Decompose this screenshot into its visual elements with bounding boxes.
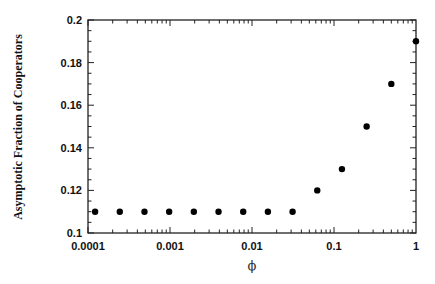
data-point <box>289 209 295 215</box>
y-tick-label: 0.1 <box>67 227 82 239</box>
y-tick-label: 0.16 <box>61 99 82 111</box>
x-tick-label: 0.01 <box>241 240 262 252</box>
data-point <box>339 166 345 172</box>
y-tick-label: 0.2 <box>67 14 82 26</box>
data-point <box>117 209 123 215</box>
y-tick-label: 0.18 <box>61 57 82 69</box>
x-tick-label: 1 <box>413 240 419 252</box>
data-point <box>363 123 369 129</box>
y-axis-label: Asymptotic Fraction of Cooperators <box>11 34 25 220</box>
data-point <box>166 209 172 215</box>
y-tick-label: 0.14 <box>61 142 83 154</box>
x-tick-label: 0.1 <box>326 240 341 252</box>
data-point <box>191 209 197 215</box>
data-point <box>215 209 221 215</box>
x-axis-label: ϕ <box>248 258 257 273</box>
x-tick-label: 0.001 <box>156 240 184 252</box>
data-point <box>141 209 147 215</box>
data-point <box>265 209 271 215</box>
y-axis-ticks: 0.10.120.140.160.180.2 <box>61 14 416 239</box>
data-points <box>92 38 419 215</box>
data-point <box>92 209 98 215</box>
scatter-chart: 0.00010.0010.010.11 0.10.120.140.160.180… <box>0 0 435 284</box>
y-tick-label: 0.12 <box>61 184 82 196</box>
data-point <box>388 81 394 87</box>
x-tick-label: 0.0001 <box>71 240 105 252</box>
data-point <box>314 187 320 193</box>
x-axis-ticks: 0.00010.0010.010.11 <box>71 20 419 252</box>
data-point <box>240 209 246 215</box>
data-point <box>413 38 419 44</box>
